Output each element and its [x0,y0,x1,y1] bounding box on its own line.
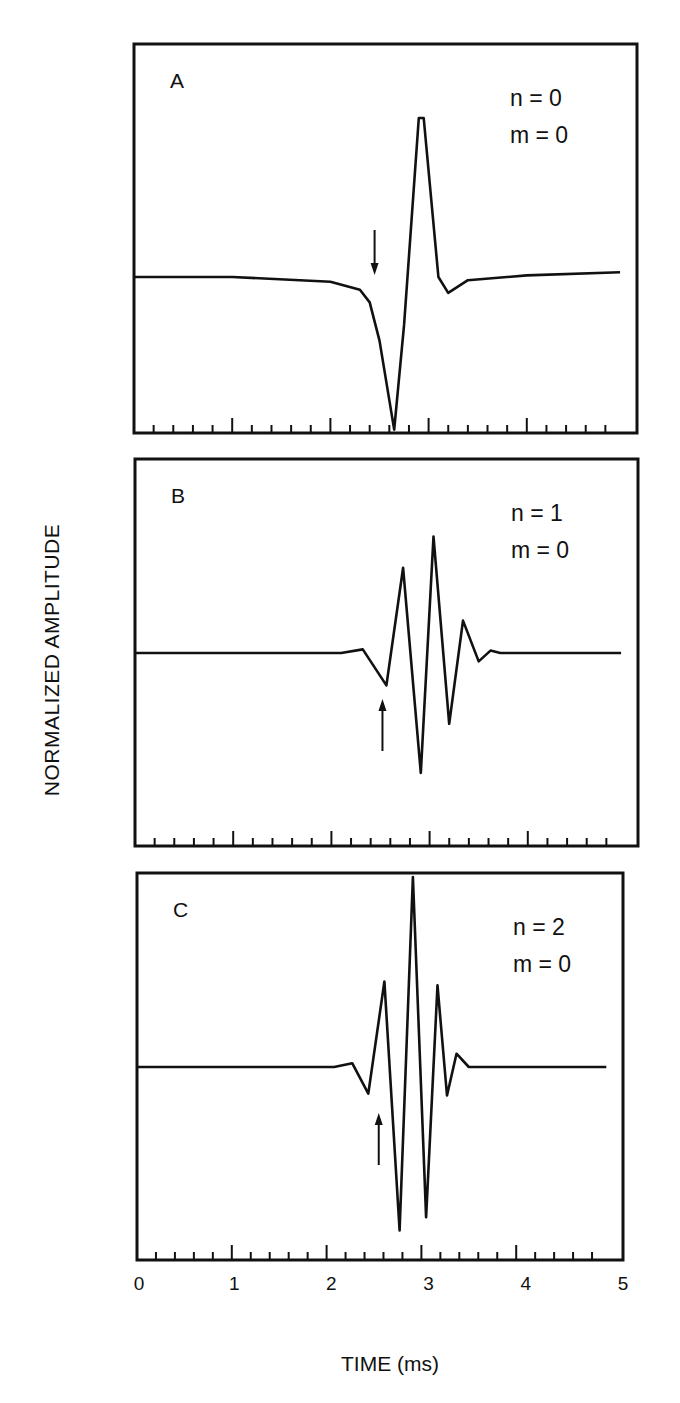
onset-arrow-icon [378,699,386,751]
x-tick-label: 5 [618,1273,629,1294]
panel-c: Cn = 2m = 0 [137,873,623,1260]
panel-parameter: n = 2 [513,914,565,940]
waveform-trace [134,118,620,430]
panel-label: C [173,898,188,921]
x-tick-label: 2 [326,1273,337,1294]
x-tick-label: 4 [521,1273,532,1294]
panel-label: A [170,69,184,92]
x-axis-ticks [156,1245,592,1260]
figure-canvas: An = 0m = 0Bn = 1m = 0Cn = 2m = 0012345 [0,0,680,1403]
x-axis-ticks [155,831,607,846]
x-tick-label: 0 [134,1273,145,1294]
y-axis-label: NORMALIZED AMPLITUDE [40,524,64,797]
panel-parameter: n = 1 [511,500,563,526]
onset-arrow-icon [375,1113,383,1165]
x-tick-label: 1 [229,1273,240,1294]
panel-parameter: m = 0 [510,122,568,148]
panel-parameter: m = 0 [511,537,569,563]
panel-b: Bn = 1m = 0 [135,459,638,846]
panel-label: B [171,484,185,507]
panel-a: An = 0m = 0 [134,44,637,433]
onset-arrow-icon [371,230,379,275]
x-axis-tick-labels: 012345 [134,1273,629,1294]
panel-parameter: m = 0 [513,951,571,977]
x-tick-label: 3 [423,1273,434,1294]
x-axis-ticks [154,418,606,433]
waveform-trace [135,537,621,773]
x-axis-label: TIME (ms) [341,1352,439,1376]
panel-parameter: n = 0 [510,85,562,111]
